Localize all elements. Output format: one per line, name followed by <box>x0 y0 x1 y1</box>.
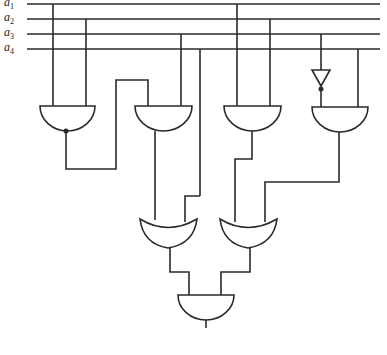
and-gate-2 <box>135 106 192 220</box>
and-gate-3 <box>224 106 281 222</box>
or-gate-1 <box>140 219 197 295</box>
and-gate-output <box>178 295 234 328</box>
input-bus <box>27 4 380 49</box>
logic-circuit-diagram <box>0 0 387 355</box>
input-taps <box>53 4 358 196</box>
and-gate-4 <box>265 107 368 222</box>
or-gate-2 <box>220 219 277 295</box>
not-gate <box>312 70 330 107</box>
and-gate-1 <box>40 80 148 169</box>
